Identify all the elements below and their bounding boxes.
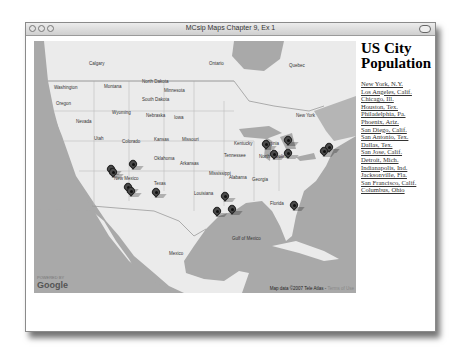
city-link-san-francisco[interactable]: San Francisco, Calif. (361, 179, 433, 187)
terms-of-use-link[interactable]: Terms of Use (327, 286, 354, 291)
list-item: Phoenix, Ariz. (361, 118, 433, 126)
map-marker-icon[interactable] (109, 168, 117, 180)
city-link-indianapolis[interactable]: Indianapolis, Ind. (361, 164, 433, 172)
map-label: Oklahoma (154, 156, 175, 161)
map-label: Wyoming (112, 110, 131, 115)
list-item: New York, N.Y. (361, 80, 433, 88)
city-link-phoenix[interactable]: Phoenix, Ariz. (361, 118, 433, 126)
list-item: Philadelphia, Pa. (361, 110, 433, 118)
city-link-philadelphia[interactable]: Philadelphia, Pa. (361, 110, 433, 118)
map-label: Minnesota (164, 88, 185, 93)
map-label: Montana (104, 84, 122, 89)
city-link-san-diego[interactable]: San Diego, Calif. (361, 126, 433, 134)
city-link-los-angeles[interactable]: Los Angeles, Calif. (361, 88, 433, 96)
map-marker-icon[interactable] (221, 192, 229, 204)
map-label: South Dakota (142, 97, 169, 102)
list-item: San Jose, Calif. (361, 148, 433, 156)
list-item: Detroit, Mich. (361, 156, 433, 164)
attribution-text: Map data ©2007 Tele Atlas - (270, 286, 327, 291)
map-label: Ontario (209, 61, 224, 66)
list-item: Houston, Tex. (361, 103, 433, 111)
toolbar-toggle-button[interactable] (419, 25, 431, 33)
city-link-columbus[interactable]: Columbus, Ohio (361, 186, 433, 194)
map-marker-icon[interactable] (213, 207, 221, 219)
map-label: New York (296, 113, 315, 118)
city-link-dallas[interactable]: Dallas, Tex. (361, 141, 433, 149)
list-item: Indianapolis, Ind. (361, 164, 433, 172)
map-label: Missouri (182, 137, 199, 142)
map-label: Texas (154, 181, 166, 186)
map-land-shapes (34, 41, 356, 293)
city-link-san-antonio[interactable]: San Antonio, Tex. (361, 133, 433, 141)
window-title: MCsip Maps Chapter 9, Ex 1 (26, 24, 435, 31)
title-bar[interactable]: MCsip Maps Chapter 9, Ex 1 (26, 23, 435, 36)
map-label: Quebec (289, 63, 305, 68)
map-label: Calgary (89, 61, 105, 66)
map-label: Arkansas (180, 161, 199, 166)
map-label: North Dakota (142, 79, 169, 84)
map-label: Iowa (174, 115, 184, 120)
map-marker-icon[interactable] (129, 160, 137, 172)
city-list: New York, N.Y. Los Angeles, Calif. Chica… (361, 80, 433, 194)
list-item: Chicago, Ill. (361, 95, 433, 103)
map-label: Colorado (122, 139, 140, 144)
map-label: Gulf of Mexico (232, 236, 261, 241)
city-link-jacksonville[interactable]: Jacksonville, Fla. (361, 171, 433, 179)
list-item: San Diego, Calif. (361, 126, 433, 134)
map-marker-icon[interactable] (152, 188, 160, 200)
map-label: Mississippi (209, 171, 231, 176)
list-item: Los Angeles, Calif. (361, 88, 433, 96)
map-marker-icon[interactable] (228, 205, 236, 217)
map-marker-icon[interactable] (270, 150, 278, 162)
map-marker-icon[interactable] (320, 147, 328, 159)
map-label: Alabama (229, 175, 247, 180)
map-label: Oregon (56, 101, 71, 106)
city-link-new-york[interactable]: New York, N.Y. (361, 80, 433, 88)
map-label: Louisiana (194, 191, 213, 196)
list-item: Jacksonville, Fla. (361, 171, 433, 179)
browser-window: MCsip Maps Chapter 9, Ex 1 (25, 22, 436, 332)
list-item: San Antonio, Tex. (361, 133, 433, 141)
google-map[interactable]: WashingtonOregonMontanaWyomingNorth Dako… (34, 41, 356, 293)
map-label: Florida (270, 201, 284, 206)
map-label: Mexico (169, 251, 183, 256)
map-label: Nebraska (146, 113, 165, 118)
list-item: San Francisco, Calif. (361, 179, 433, 187)
map-label: Kentucky (234, 141, 253, 146)
map-label: Georgia (252, 177, 268, 182)
city-link-chicago[interactable]: Chicago, Ill. (361, 95, 433, 103)
city-link-san-jose[interactable]: San Jose, Calif. (361, 148, 433, 156)
map-marker-icon[interactable] (284, 136, 292, 148)
map-label: Nevada (76, 119, 92, 124)
map-attribution: Map data ©2007 Tele Atlas - Terms of Use (270, 286, 354, 291)
page-title: US City Population (361, 41, 433, 71)
map-marker-icon[interactable] (262, 140, 270, 152)
list-item: Columbus, Ohio (361, 186, 433, 194)
city-sidebar: US City Population New York, N.Y. Los An… (361, 41, 433, 194)
map-marker-icon[interactable] (290, 201, 298, 213)
map-label: Utah (94, 136, 104, 141)
google-logo[interactable]: Google (37, 280, 68, 290)
map-label: Kansas (154, 137, 169, 142)
map-marker-icon[interactable] (284, 149, 292, 161)
map-label: Tennessee (224, 153, 246, 158)
list-item: Dallas, Tex. (361, 141, 433, 149)
city-link-houston[interactable]: Houston, Tex. (361, 103, 433, 111)
map-marker-icon[interactable] (127, 187, 135, 199)
map-label: Washington (54, 85, 78, 90)
city-link-detroit[interactable]: Detroit, Mich. (361, 156, 433, 164)
